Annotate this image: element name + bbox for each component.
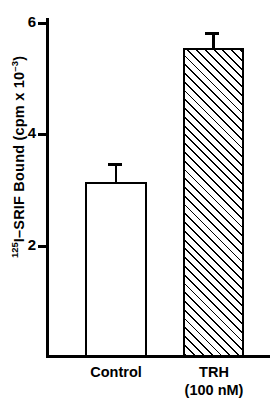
- y-tick-mark-4: [38, 133, 47, 136]
- y-axis-label: 125I–SRIF Bound (cpm x 10–3): [9, 7, 27, 307]
- y-tick-mark-6: [38, 22, 47, 25]
- figure-bar-chart: 125I–SRIF Bound (cpm x 10–3) 6 4 2 Contr…: [0, 0, 279, 399]
- y-tick-mark-2: [38, 245, 47, 248]
- x-tick-label-trh: TRH (100 nM): [170, 363, 258, 399]
- error-bar-stem-control: [115, 164, 118, 183]
- y-axis-label-suffix: ): [11, 56, 27, 61]
- error-bar-cap-control: [108, 163, 122, 166]
- bar-control: [85, 182, 147, 357]
- bar-trh: [183, 48, 244, 357]
- y-axis-line: [46, 18, 49, 358]
- y-axis-label-main: I–SRIF Bound (cpm x 10: [11, 72, 27, 242]
- x-tick-label-control-text: Control: [90, 364, 142, 380]
- error-bar-stem-trh: [212, 33, 215, 49]
- y-axis-label-exponent: –3: [9, 61, 20, 72]
- x-tick-sublabel-trh-dose: (100 nM): [170, 381, 258, 399]
- y-tick-label-2: 2: [0, 237, 36, 252]
- y-tick-label-6: 6: [0, 14, 36, 29]
- x-tick-label-control: Control: [74, 363, 158, 381]
- x-tick-label-trh-text: TRH: [199, 364, 229, 380]
- y-tick-label-4: 4: [0, 125, 36, 140]
- error-bar-cap-trh: [205, 32, 219, 35]
